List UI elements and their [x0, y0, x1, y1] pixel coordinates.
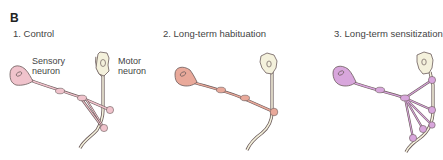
panel-2-habituation — [175, 53, 278, 150]
sensory-neuron — [333, 66, 436, 141]
sensory-neuron — [10, 66, 114, 132]
sensory-neuron — [175, 67, 278, 116]
panel-1-control — [10, 52, 114, 148]
neuron-diagram — [0, 0, 443, 160]
panel-3-sensitization — [333, 52, 436, 152]
